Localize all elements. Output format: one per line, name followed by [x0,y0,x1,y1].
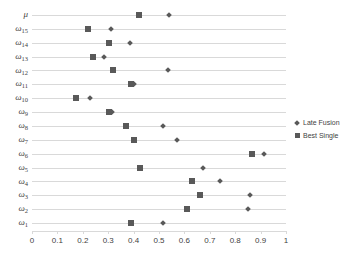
data-point-square [85,26,91,32]
data-point-diamond [262,151,268,157]
data-point-square [249,151,255,157]
y-axis-label: ω7 [18,133,28,147]
plot-row [32,161,286,175]
plot-row [32,91,286,105]
y-axis-label: ω15 [15,22,28,36]
plot-row [32,175,286,189]
data-point-square [184,206,190,212]
plot-row [32,22,286,36]
gridline [32,43,286,44]
plot-row [32,188,286,202]
x-axis-tick-label: 0.4 [128,236,139,245]
data-point-diamond [160,123,166,129]
legend-label: Late Fusion [302,119,340,126]
chart-legend: Late FusionBest Single [292,116,340,142]
legend-label: Best Single [302,132,338,139]
data-point-diamond [245,206,251,212]
data-point-diamond [166,12,172,18]
gridline [32,140,286,141]
data-point-diamond [127,40,133,46]
x-axis-tick-label: 0.1 [52,236,63,245]
plot-row [32,147,286,161]
x-axis-tick [261,231,262,234]
plot-row [32,105,286,119]
y-axis-label: ω3 [18,188,28,202]
data-point-diamond [165,68,171,74]
data-point-square [189,178,195,184]
data-point-square [73,95,79,101]
x-axis-tick [83,231,84,234]
gridline [32,29,286,30]
x-axis-tick [159,231,160,234]
data-point-square [106,109,112,115]
x-axis-tick-label: 0.5 [153,236,164,245]
data-point-diamond [174,137,180,143]
plot-row [32,77,286,91]
y-axis-label: ω6 [18,147,28,161]
x-axis-tick-label: 1 [284,236,288,245]
y-axis-label: ω5 [18,161,28,175]
gridline [32,98,286,99]
plot-row [32,216,286,230]
data-point-square [136,12,142,18]
gridline [32,57,286,58]
y-axis-label: ω10 [15,91,28,105]
plot-row [32,8,286,22]
data-point-square [106,40,112,46]
gridline [32,70,286,71]
data-point-diamond [108,26,114,32]
data-point-square [128,81,134,87]
x-axis-tick-label: 0.8 [230,236,241,245]
x-axis-tick [286,231,287,234]
legend-diamond-icon [292,121,302,125]
legend-item: Best Single [292,129,340,142]
data-point-square [197,192,203,198]
data-point-square [131,137,137,143]
y-axis-labels: μω15ω14ω13ω12ω11ω10ω9ω8ω7ω6ω5ω4ω3ω2ω1 [0,8,30,230]
data-point-diamond [88,95,94,101]
data-point-square [123,123,129,129]
x-axis-tick [134,231,135,234]
x-axis-tick [32,231,33,234]
gridline [32,223,286,224]
legend-square-icon [292,133,302,138]
data-point-diamond [160,220,166,226]
plot-row [32,64,286,78]
gridline [32,84,286,85]
x-axis-tick-label: 0.6 [179,236,190,245]
data-point-square [137,165,143,171]
gridline [32,15,286,16]
y-axis-label: ω13 [15,50,28,64]
data-point-square [90,54,96,60]
gridline [32,181,286,182]
y-axis-label: ω8 [18,119,28,133]
plot-row [32,119,286,133]
x-axis-tick-label: 0 [30,236,34,245]
y-axis-label: ω11 [15,77,28,91]
gridline [32,112,286,113]
data-point-diamond [201,165,207,171]
y-axis-label: ω12 [15,64,28,78]
x-axis-tick-label: 0.3 [103,236,114,245]
data-point-square [128,220,134,226]
data-point-diamond [248,192,254,198]
gridline [32,126,286,127]
y-axis-label: ω4 [18,175,28,189]
x-axis-tick [57,231,58,234]
plot-row [32,133,286,147]
x-axis-tick-label: 0.9 [255,236,266,245]
data-point-square [110,67,116,73]
x-axis-tick-label: 0.2 [77,236,88,245]
x-axis-tick [235,231,236,234]
x-axis-tick [210,231,211,234]
data-point-diamond [217,179,223,185]
gridline [32,168,286,169]
y-axis-label: ω14 [15,36,28,50]
x-axis-tick [108,231,109,234]
y-axis-label: μ [23,8,28,22]
x-axis-tick-label: 0.7 [204,236,215,245]
dot-plot-chart: μω15ω14ω13ω12ω11ω10ω9ω8ω7ω6ω5ω4ω3ω2ω1 00… [0,0,340,263]
plot-row [32,50,286,64]
x-axis-tick [184,231,185,234]
y-axis-label: ω1 [18,216,28,230]
